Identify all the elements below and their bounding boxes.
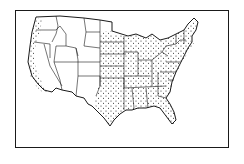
us-map [0, 0, 244, 164]
west-coast-stippled-region [28, 18, 48, 92]
